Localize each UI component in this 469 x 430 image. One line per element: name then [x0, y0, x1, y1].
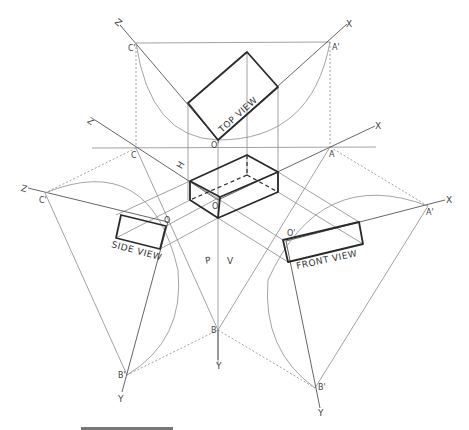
label-plane-h: H	[175, 160, 187, 171]
label-y-right: Y	[317, 408, 324, 418]
label-o-prime-right: O'	[287, 229, 296, 238]
label-c-prime-top: C'	[128, 44, 136, 53]
top-view-construction	[92, 24, 376, 365]
label-o-center: O	[212, 202, 218, 211]
label-a-prime-top: A'	[332, 43, 340, 52]
label-front-view: FRONT VIEW	[295, 248, 358, 271]
label-z-mid: Z	[85, 115, 96, 127]
label-b-prime-left: B'	[118, 371, 126, 380]
label-o-left: O	[164, 216, 170, 225]
label-y-center: Y	[215, 361, 222, 371]
label-top-view: TOP VIEW	[216, 95, 259, 135]
front-view-construction	[267, 195, 445, 408]
label-plane-v: V	[227, 256, 234, 266]
label-y-left: Y	[117, 394, 124, 404]
label-c-prime-left: C'	[39, 196, 47, 205]
isometric-projection-diagram: Z X Z X Z X Y Y Y C' A' O' C A O C' O A'…	[0, 0, 469, 430]
top-view-rectangle	[188, 52, 278, 140]
label-x-right: X	[446, 195, 452, 205]
label-x-top: X	[346, 19, 352, 29]
label-b-center: B	[211, 326, 217, 335]
label-o-prime-top: O'	[211, 141, 220, 150]
labels: Z X Z X Z X Y Y Y C' A' O' C A O C' O A'…	[20, 17, 452, 418]
label-x-mid: X	[375, 121, 381, 131]
label-c-mid: C	[131, 151, 137, 160]
label-plane-p: P	[204, 255, 212, 266]
label-z-top: Z	[113, 17, 124, 29]
label-a-prime-right: A'	[426, 208, 434, 217]
label-b-prime-right: B'	[318, 383, 326, 392]
label-a-mid: A	[329, 150, 335, 159]
label-z-left: Z	[20, 183, 29, 194]
